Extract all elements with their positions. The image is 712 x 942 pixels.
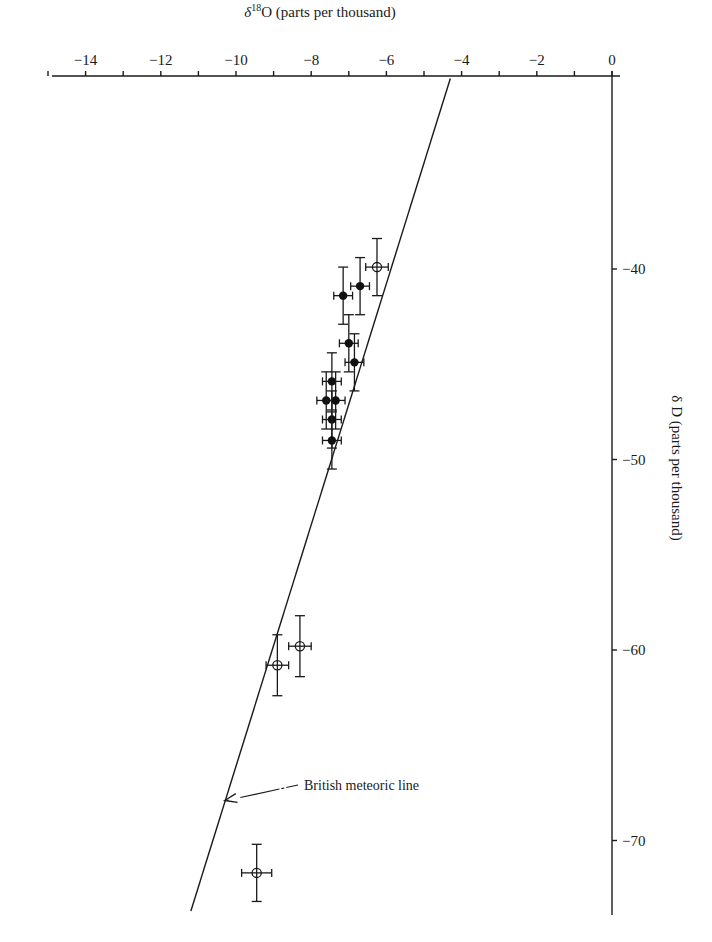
filled-marker — [345, 339, 353, 347]
x-tick-label: 0 — [608, 52, 616, 68]
y-tick-label: −70 — [622, 833, 645, 849]
filled-marker — [328, 377, 336, 385]
x-axis-title: δ18O (parts per thousand) — [244, 2, 396, 21]
data-points — [242, 239, 389, 902]
y-tick-label: −50 — [622, 452, 645, 468]
x-tick-label: −2 — [529, 52, 545, 68]
x-tick-label: −6 — [378, 52, 394, 68]
y-axis-title: δ D (parts per thousand) — [668, 395, 685, 540]
data-point — [289, 616, 312, 677]
scatter-chart: δ18O (parts per thousand) −14−12−10−8−6−… — [0, 0, 712, 942]
filled-marker — [350, 358, 358, 366]
annotation-label: British meteoric line — [304, 778, 419, 793]
y-tick-label: −40 — [622, 261, 645, 277]
x-tick-label: −4 — [454, 52, 470, 68]
data-point — [266, 635, 289, 696]
y-tick-label: −60 — [622, 642, 645, 658]
annotation-arrow-line — [227, 785, 298, 800]
x-tick-label: −10 — [224, 52, 247, 68]
x-tick-label: −8 — [303, 52, 319, 68]
data-point — [334, 267, 353, 324]
x-tick-label: −12 — [149, 52, 172, 68]
data-point — [322, 412, 341, 469]
y-axis: −40−50−60−70 — [612, 76, 645, 915]
filled-marker — [328, 436, 336, 444]
x-tick-label: −14 — [74, 52, 98, 68]
filled-marker — [331, 396, 339, 404]
data-point — [351, 258, 370, 315]
data-point — [242, 844, 272, 901]
filled-marker — [356, 282, 364, 290]
filled-marker — [339, 291, 347, 299]
annotations: British meteoric line — [225, 778, 419, 802]
x-axis: −14−12−10−8−6−4−20 — [48, 52, 620, 76]
